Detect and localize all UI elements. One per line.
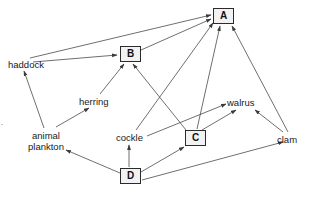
node-label-clam: clam [277, 134, 297, 145]
edge-herring-to-B [100, 64, 124, 94]
node-box-d[interactable]: D [120, 168, 141, 184]
edge-D-to-clam [142, 142, 283, 180]
edge-C-to-A [197, 26, 220, 129]
node-box-label: C [192, 133, 199, 143]
node-box-c[interactable]: C [185, 130, 206, 146]
node-label-walrus: walrus [227, 97, 254, 108]
edge-clam-to-A [232, 26, 288, 132]
edge-C-to-B [133, 64, 186, 130]
node-box-label: B [127, 49, 134, 59]
edge-clam-to-walrus [255, 110, 283, 132]
edge-D-to-C [141, 147, 184, 172]
edge-layer [0, 0, 312, 197]
node-label-plankton: animal plankton [28, 130, 64, 152]
edge-haddock-to-B [33, 55, 117, 62]
node-label-cockle: cockle [116, 132, 143, 143]
food-web-diagram: ABCD haddockherringanimal planktoncockle… [0, 0, 312, 197]
node-box-label: A [220, 11, 227, 21]
node-box-b[interactable]: B [120, 46, 141, 62]
edge-C-to-walrus [202, 110, 236, 130]
stray-mark [1, 124, 3, 125]
edge-plankton-to-haddock [24, 71, 44, 128]
node-box-label: D [127, 171, 134, 181]
edge-D-to-plankton [66, 150, 120, 173]
node-box-a[interactable]: A [213, 8, 234, 24]
edge-plankton-to-herring [56, 108, 89, 127]
node-label-herring: herring [79, 96, 109, 107]
node-label-haddock: haddock [8, 59, 44, 70]
